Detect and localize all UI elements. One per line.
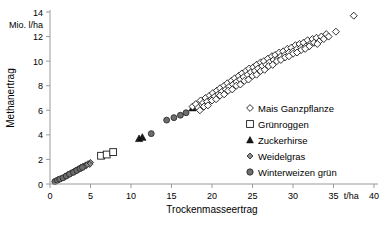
marker-open-square bbox=[247, 121, 254, 128]
legend-label: Grünroggen bbox=[258, 119, 309, 130]
legend-marker bbox=[247, 153, 253, 159]
legend-label: Zuckerhirse bbox=[258, 135, 308, 146]
data-point bbox=[177, 112, 183, 118]
x-tick-label: 40 bbox=[369, 191, 379, 201]
legend-item-winterweizen-gr-n: Winterweizen grün bbox=[247, 167, 337, 178]
legend-item-zuckerhirse: Zuckerhirse bbox=[247, 135, 308, 146]
legend-marker bbox=[247, 169, 253, 175]
marker-grey-circle bbox=[183, 110, 189, 116]
y-tick-label: 6 bbox=[38, 106, 43, 116]
x-tick-label: 35 bbox=[328, 191, 338, 201]
x-unit-label: t/ha bbox=[344, 191, 359, 201]
legend-marker bbox=[247, 121, 254, 128]
legend-label: Winterweizen grün bbox=[258, 167, 337, 178]
series-winterweizen-gr-n bbox=[52, 110, 189, 185]
data-point bbox=[332, 28, 339, 35]
x-tick-label: 0 bbox=[47, 191, 52, 201]
y-axis-title: Methanertrag bbox=[5, 68, 16, 127]
data-point-layer bbox=[52, 12, 357, 184]
data-point bbox=[164, 117, 170, 123]
marker-filled-triangle bbox=[247, 137, 254, 143]
y-tick-label: 8 bbox=[38, 81, 43, 91]
marker-grey-circle bbox=[148, 131, 154, 137]
x-tick-label: 20 bbox=[207, 191, 217, 201]
x-tick-label: 30 bbox=[288, 191, 298, 201]
chart-canvas: 024681012140510152025303540Mio. l/hat/ha… bbox=[0, 0, 388, 231]
marker-open-square bbox=[110, 149, 117, 156]
marker-open-diamond bbox=[350, 12, 357, 19]
x-tick-label: 10 bbox=[126, 191, 136, 201]
legend-item-mais-ganzpflanze: Mais Ganzpflanze bbox=[247, 103, 334, 114]
y-tick-label: 10 bbox=[33, 57, 43, 67]
marker-grey-circle bbox=[247, 169, 253, 175]
x-tick-label: 5 bbox=[88, 191, 93, 201]
legend-marker bbox=[247, 137, 254, 143]
marker-open-square bbox=[103, 151, 110, 158]
legend-item-weidelgras: Weidelgras bbox=[247, 151, 306, 162]
marker-grey-circle bbox=[79, 164, 85, 170]
data-point bbox=[171, 115, 177, 121]
legend-marker bbox=[247, 105, 254, 112]
y-tick-label: 4 bbox=[38, 130, 43, 140]
data-point bbox=[350, 12, 357, 19]
chart-legend: Mais GanzpflanzeGrünroggenZuckerhirseWei… bbox=[247, 103, 337, 178]
scatter-chart: 024681012140510152025303540Mio. l/hat/ha… bbox=[0, 0, 388, 231]
series-mais-ganzpflanze bbox=[189, 12, 357, 114]
y-tick-label: 2 bbox=[38, 155, 43, 165]
legend-label: Weidelgras bbox=[258, 151, 306, 162]
marker-open-diamond bbox=[332, 28, 339, 35]
data-point bbox=[103, 151, 110, 158]
marker-grey-diamond bbox=[247, 153, 253, 159]
x-tick-label: 25 bbox=[247, 191, 257, 201]
series-gr-nroggen bbox=[98, 149, 117, 159]
data-point bbox=[79, 164, 85, 170]
marker-grey-circle bbox=[164, 117, 170, 123]
y-tick-label: 14 bbox=[33, 8, 43, 18]
data-point bbox=[183, 110, 189, 116]
marker-open-diamond bbox=[247, 105, 254, 112]
data-point bbox=[110, 149, 117, 156]
legend-item-gr-nroggen: Grünroggen bbox=[247, 119, 309, 130]
y-tick-label: 12 bbox=[33, 32, 43, 42]
data-point bbox=[148, 131, 154, 137]
y-tick-label: 0 bbox=[38, 180, 43, 190]
marker-grey-circle bbox=[171, 115, 177, 121]
x-tick-label: 15 bbox=[166, 191, 176, 201]
legend-label: Mais Ganzpflanze bbox=[258, 103, 334, 114]
marker-grey-circle bbox=[177, 112, 183, 118]
y-unit-label: Mio. l/ha bbox=[9, 20, 43, 30]
x-axis-title: Trockenmasseertrag bbox=[166, 204, 257, 215]
